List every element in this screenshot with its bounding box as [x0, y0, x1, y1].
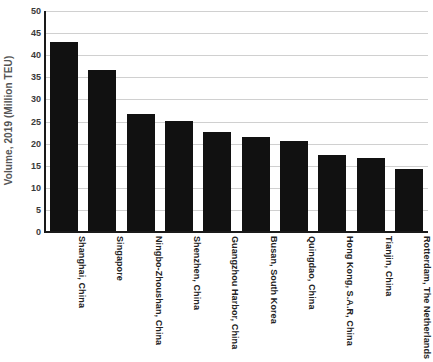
y-axis-tick-label: 30	[1, 94, 41, 104]
y-axis-tick-label: 50	[1, 6, 41, 16]
bar[interactable]	[50, 42, 78, 232]
x-axis-tick-label: Shanghai, China	[45, 236, 83, 362]
y-axis-line	[44, 11, 46, 233]
x-axis-tick-label-text: Singapore	[87, 236, 125, 281]
bar[interactable]	[165, 121, 193, 232]
bar[interactable]	[88, 70, 116, 232]
bar[interactable]	[318, 155, 346, 232]
y-axis-tick-label: 40	[1, 50, 41, 60]
x-axis-tick-labels: Shanghai, ChinaSingaporeNingbo-Zhoushan,…	[45, 236, 428, 362]
x-axis-tick-label: Singapore	[83, 236, 121, 362]
x-axis-tick-label-text: Busan, South Korea	[241, 236, 279, 324]
y-axis-tick-label: 45	[1, 28, 41, 38]
x-axis-tick-label-text: Tianjin, China	[356, 236, 394, 296]
x-axis-tick-label: Tianjin, China	[352, 236, 390, 362]
x-axis-tick-label-text: Rotterdam, The Netherlands	[394, 236, 432, 359]
x-axis-tick-label: Busan, South Korea	[237, 236, 275, 362]
bar[interactable]	[242, 137, 270, 232]
x-axis-tick-label: Guangzhou Harbor, China	[198, 236, 236, 362]
bar[interactable]	[203, 132, 231, 232]
x-axis-tick-label: Rotterdam, The Netherlands	[390, 236, 428, 362]
bar[interactable]	[395, 169, 423, 232]
gridline	[45, 55, 428, 56]
x-axis-tick-label: Ningbo-Zhoushan, China	[122, 236, 160, 362]
bar[interactable]	[357, 158, 385, 232]
y-axis-tick-label: 20	[1, 139, 41, 149]
x-axis-tick-label: Shenzhen, China	[160, 236, 198, 362]
y-axis-tick-label: 15	[1, 161, 41, 171]
y-axis-tick-label: 5	[1, 205, 41, 215]
x-axis-tick-label-text: Quingdao, China	[279, 236, 317, 310]
gridline	[45, 33, 428, 34]
plot-area	[45, 11, 428, 232]
bar-chart: Volume, 2019 (Million TEU) 0510152025303…	[0, 0, 433, 362]
bar[interactable]	[280, 141, 308, 232]
x-axis-tick-label-text: Guangzhou Harbor, China	[202, 236, 240, 349]
gridline	[45, 11, 428, 12]
x-axis-tick-label-text: Shenzhen, China	[164, 236, 202, 310]
y-axis-tick-label: 0	[1, 227, 41, 237]
x-axis-tick-label-text: Ningbo-Zhoushan, China	[126, 236, 164, 345]
x-axis-tick-label-text: Hong Kong, S.A.R, China	[317, 236, 355, 346]
y-axis-tick-labels: 05101520253035404550	[0, 11, 41, 232]
x-axis-tick-label: Quingdao, China	[275, 236, 313, 362]
y-axis-tick-label: 35	[1, 72, 41, 82]
x-axis-tick-label-text: Shanghai, China	[49, 236, 87, 308]
x-axis-tick-label: Hong Kong, S.A.R, China	[313, 236, 351, 362]
y-axis-tick-label: 25	[1, 117, 41, 127]
x-axis-line	[45, 231, 428, 233]
y-axis-tick-label: 10	[1, 183, 41, 193]
bar[interactable]	[127, 114, 155, 232]
